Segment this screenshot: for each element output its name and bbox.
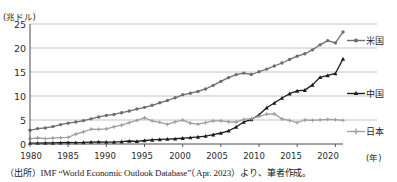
data-point (295, 121, 299, 125)
data-point (227, 76, 230, 79)
data-point (311, 48, 314, 51)
data-point (150, 119, 154, 123)
data-point (326, 118, 330, 122)
data-point (36, 136, 40, 140)
data-point (112, 125, 116, 129)
x-tick-label-1990: 1990 (94, 151, 116, 161)
data-point (181, 118, 185, 122)
series-layer (28, 30, 345, 145)
data-point (181, 93, 184, 96)
x-tick-label-2000: 2000 (169, 151, 191, 161)
data-point (318, 43, 321, 46)
data-point (173, 96, 176, 99)
data-point (74, 120, 77, 123)
x-tick-label-2005: 2005 (206, 151, 228, 161)
data-point (158, 101, 161, 104)
data-point (89, 127, 93, 131)
gdp-line-chart-figure: (兆ドル) 25 20 15 10 5 0 1980 1985 1990 199… (0, 0, 397, 182)
data-point (204, 121, 208, 125)
series-line-米国 (30, 32, 343, 130)
data-point (66, 121, 69, 124)
data-point (219, 119, 223, 123)
data-point (242, 71, 245, 74)
legend-marker-china-icon (347, 89, 365, 98)
source-note: （出所）IMF “World Economic Outlook Database… (5, 166, 311, 179)
data-point (51, 125, 54, 128)
data-point (150, 104, 153, 107)
data-point (51, 136, 55, 140)
data-point (318, 118, 322, 122)
data-point (234, 120, 238, 124)
series-line-中国 (30, 59, 343, 143)
legend-item-china[interactable]: 中国 (347, 87, 384, 100)
data-point (288, 119, 292, 123)
data-point (311, 118, 315, 122)
data-point (326, 39, 329, 42)
data-point (265, 112, 269, 116)
data-point (158, 121, 162, 125)
data-point (97, 127, 101, 131)
data-point (120, 111, 123, 114)
data-point (189, 92, 192, 95)
data-point (74, 132, 78, 136)
data-point (296, 54, 299, 57)
data-point (211, 119, 215, 123)
data-point (44, 126, 47, 129)
data-point (334, 41, 337, 44)
data-point (234, 73, 237, 76)
x-tick-label-1980: 1980 (20, 151, 42, 161)
data-point (82, 119, 85, 122)
data-point (227, 120, 231, 124)
data-point (120, 123, 124, 127)
data-point (43, 137, 47, 141)
data-point (82, 130, 86, 134)
data-point (143, 106, 146, 109)
data-point (273, 64, 276, 67)
data-point (166, 99, 169, 102)
data-point (143, 116, 147, 120)
x-axis-unit-label: (年) (366, 151, 382, 163)
data-point (128, 109, 131, 112)
data-point (66, 135, 70, 139)
legend-marker-us-icon (347, 36, 365, 45)
data-point (135, 107, 138, 110)
data-point (303, 52, 306, 55)
data-point (196, 122, 200, 126)
legend-item-us[interactable]: 米国 (347, 34, 384, 47)
x-tick-label-1995: 1995 (131, 151, 153, 161)
data-point (242, 118, 246, 122)
data-point (265, 67, 268, 70)
x-tick-label-1985: 1985 (57, 151, 79, 161)
legend-label-china: 中国 (366, 87, 384, 100)
data-point (303, 118, 307, 122)
data-point (196, 90, 199, 93)
axis-lines (30, 24, 343, 144)
data-point (288, 58, 291, 61)
data-point (89, 117, 92, 120)
data-point (59, 123, 62, 126)
data-point (166, 122, 170, 126)
plot-area (0, 18, 397, 151)
data-point (104, 127, 108, 131)
series-米国 (28, 30, 344, 132)
data-point (341, 57, 345, 61)
data-point (105, 114, 108, 117)
data-point (188, 121, 192, 125)
data-point (97, 115, 100, 118)
legend-marker-japan-icon (347, 127, 365, 136)
series-日本 (28, 112, 345, 141)
data-point (341, 118, 345, 122)
data-point (250, 73, 253, 76)
legend-label-us: 米国 (366, 34, 384, 47)
series-line-日本 (30, 114, 343, 139)
data-point (219, 80, 222, 83)
x-tick-label-2010: 2010 (243, 151, 265, 161)
data-point (135, 119, 139, 123)
gridlines (30, 24, 377, 120)
series-中国 (28, 57, 345, 145)
data-point (341, 30, 344, 33)
data-point (212, 84, 215, 87)
data-point (36, 127, 39, 130)
legend-item-japan[interactable]: 日本 (347, 125, 384, 138)
data-point (333, 118, 337, 122)
